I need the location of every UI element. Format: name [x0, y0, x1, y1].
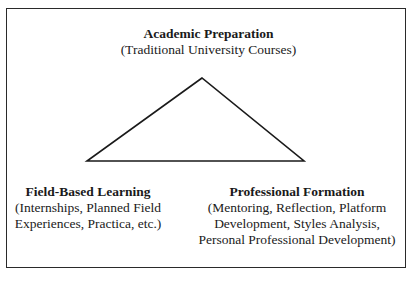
vertex-description: Experiences, Practica, etc.)	[8, 216, 168, 232]
vertex-academic-preparation: Academic Preparation (Traditional Univer…	[0, 26, 417, 58]
vertex-description: (Internships, Planned Field	[8, 200, 168, 216]
vertex-field-based-learning: Field-Based Learning (Internships, Plann…	[8, 184, 168, 232]
vertex-description: (Mentoring, Reflection, Platform	[193, 200, 401, 216]
vertex-description: (Traditional University Courses)	[0, 42, 417, 58]
vertex-description: Development, Styles Analysis,	[193, 216, 401, 232]
vertex-title: Field-Based Learning	[8, 184, 168, 200]
vertex-title: Professional Formation	[193, 184, 401, 200]
vertex-title: Academic Preparation	[0, 26, 417, 42]
vertex-professional-formation: Professional Formation (Mentoring, Refle…	[193, 184, 401, 248]
vertex-description: Personal Professional Development)	[193, 232, 401, 248]
